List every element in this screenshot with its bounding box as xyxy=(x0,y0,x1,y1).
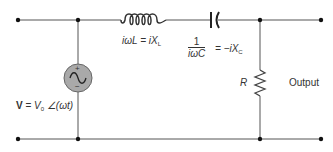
terminal-dot-bottom-left xyxy=(16,137,20,141)
terminal-dot-top-right xyxy=(319,18,323,22)
junction-dot-top-resistor xyxy=(258,18,262,22)
capacitor-numerator: 1 xyxy=(188,36,205,48)
junction-dot-bottom-source xyxy=(76,137,80,141)
voltage-phase: ∠(ωt) xyxy=(44,100,73,111)
inductor-label: iωL = iXL xyxy=(122,35,161,47)
resistor-symbol xyxy=(255,70,265,96)
inductor-symbol xyxy=(121,14,166,25)
resistor-label: R xyxy=(240,77,247,88)
inductor-label-sub: L xyxy=(158,41,161,47)
output-label: Output xyxy=(289,77,319,88)
capacitor-fraction: 1 iωC xyxy=(188,36,205,59)
circuit-diagram: + − iωL = iXL 1 iωC = −iXC R Output V = … xyxy=(0,0,333,152)
voltage-amplitude: V xyxy=(34,100,41,111)
inductor-label-text: iωL = iX xyxy=(122,35,158,46)
capacitor-label: = −iXC xyxy=(215,43,243,55)
voltage-equals: = xyxy=(23,100,34,111)
terminal-dot-top-left xyxy=(16,18,20,22)
capacitor-label-sub: C xyxy=(238,49,242,55)
capacitor-label-text: = −iX xyxy=(215,43,238,54)
junction-dot-bottom-resistor xyxy=(258,137,262,141)
junction-dot-top-source xyxy=(76,18,80,22)
source-voltage-label: V = V0 ∠(ωt) xyxy=(16,100,73,112)
circuit-svg xyxy=(0,0,333,152)
source-minus-sign: − xyxy=(75,82,80,91)
voltage-symbol: V xyxy=(16,100,23,111)
capacitor-denominator: iωC xyxy=(188,48,205,59)
terminal-dot-bottom-right xyxy=(319,137,323,141)
source-plus-sign: + xyxy=(75,64,80,73)
